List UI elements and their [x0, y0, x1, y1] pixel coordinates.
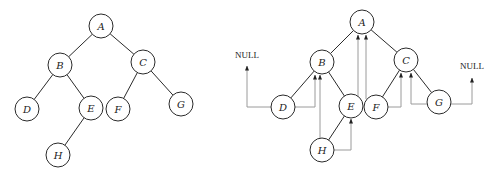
right-null-label: NULL: [460, 61, 484, 71]
right-edge-b-e: [329, 72, 345, 96]
left-node-c: C: [131, 50, 155, 74]
node-label: H: [53, 150, 63, 161]
node-label: G: [177, 99, 185, 110]
threaded-binary-tree-diagram: ABCDEFGH NULLNULLABCDEFGH: [0, 0, 494, 181]
node-label: D: [278, 102, 287, 113]
right-node-h: H: [310, 138, 334, 162]
right-node-b: B: [310, 50, 334, 74]
node-label: A: [357, 17, 365, 28]
node-label: F: [114, 104, 123, 115]
left-node-h: H: [46, 143, 70, 167]
right-node-d: D: [271, 95, 295, 119]
right-node-f: F: [364, 95, 388, 119]
right-node-c: C: [394, 48, 418, 72]
right-null-label: NULL: [235, 50, 259, 60]
node-label: B: [55, 60, 63, 71]
right-thread-h-to-e-arrow-icon: [334, 119, 351, 150]
left-node-d: D: [15, 97, 39, 121]
left-node-f: F: [106, 97, 130, 121]
right-thread-d-to-b-arrow-icon: [295, 75, 315, 107]
right-edge-b-d: [291, 71, 314, 98]
left-edge-c-g: [151, 71, 173, 95]
node-label: B: [317, 57, 325, 68]
node-label: C: [139, 57, 147, 68]
right-thread-g-to-c-arrow-icon: [411, 73, 427, 104]
left-edge-a-b: [69, 34, 93, 56]
node-label: E: [86, 103, 95, 114]
right-edge-a-c: [371, 30, 397, 52]
node-label: F: [372, 102, 381, 113]
right-node-e: E: [339, 94, 363, 118]
right-node-a: A: [350, 10, 374, 34]
right-edge-a-b: [330, 30, 353, 53]
left-edge-e-h: [65, 118, 84, 145]
right-threaded-binary-tree: NULLNULLABCDEFGH: [235, 10, 484, 162]
left-edge-c-f: [124, 73, 138, 99]
node-label: D: [22, 104, 31, 115]
left-binary-tree: ABCDEFGH: [15, 14, 193, 167]
left-node-a: A: [89, 14, 113, 38]
node-label: E: [346, 101, 355, 112]
left-node-e: E: [79, 96, 103, 120]
node-label: A: [96, 21, 104, 32]
right-edge-e-h: [329, 116, 345, 140]
right-edge-c-g: [413, 69, 431, 92]
left-edge-b-d: [34, 75, 53, 100]
right-node-g: G: [427, 90, 451, 114]
node-label: C: [402, 55, 410, 66]
left-edge-b-e: [67, 75, 84, 99]
left-edge-a-c: [110, 34, 134, 54]
right-thread-d-to-null-arrow-icon: [247, 66, 271, 107]
node-label: H: [317, 145, 327, 156]
left-node-b: B: [48, 53, 72, 77]
right-thread-g-to-null-arrow-icon: [451, 78, 472, 104]
right-edge-c-f: [382, 70, 399, 97]
left-node-g: G: [169, 92, 193, 116]
node-label: G: [435, 97, 443, 108]
